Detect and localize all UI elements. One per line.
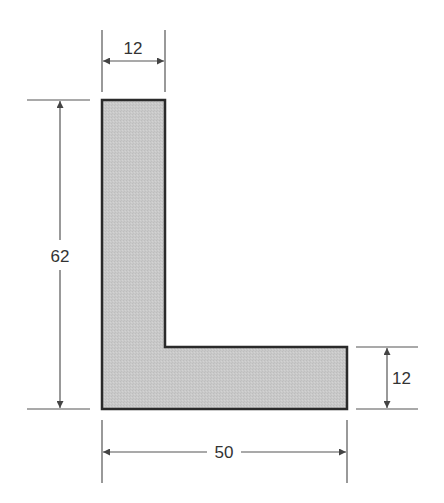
leg-thickness-dimension: 12 (356, 347, 418, 409)
height-label: 62 (51, 247, 70, 266)
base-width-dimension: 50 (102, 420, 347, 483)
l-shape (102, 100, 347, 409)
top-width-label: 12 (124, 39, 143, 58)
leg-thickness-label: 12 (392, 369, 411, 388)
base-width-label: 50 (215, 443, 234, 462)
top-width-dimension: 12 (102, 30, 165, 92)
l-section-diagram: 12 62 12 50 (0, 0, 444, 503)
height-dimension: 62 (27, 100, 90, 409)
